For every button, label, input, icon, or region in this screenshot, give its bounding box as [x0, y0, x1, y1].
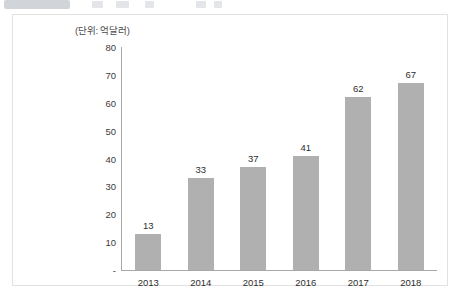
- bar-value-label: 33: [195, 164, 206, 175]
- y-axis-tick-50: 50: [83, 125, 123, 136]
- plot-area: -1020304050607080 133337416267 201320142…: [121, 47, 437, 271]
- header-ghost-item-1: [92, 1, 103, 8]
- y-axis-tick-30: 30: [83, 181, 123, 192]
- y-axis-tick-80: 80: [83, 42, 123, 53]
- bar-value-label: 62: [353, 83, 364, 94]
- header-ghost-item-4: [196, 1, 206, 8]
- bar-value-label: 41: [300, 142, 311, 153]
- bar-group[interactable]: 41: [280, 46, 333, 270]
- header-ghost-item-5: [214, 1, 222, 8]
- bar-value-label: 37: [248, 153, 259, 164]
- bar-value-label: 13: [143, 220, 154, 231]
- y-axis-tick-60: 60: [83, 97, 123, 108]
- bar-group[interactable]: 37: [227, 46, 280, 270]
- chart-panel: (단위: 억달러) -1020304050607080 133337416267…: [12, 14, 448, 286]
- x-axis-tick-2018: 2018: [385, 277, 438, 288]
- x-axis-tick-2015: 2015: [227, 277, 280, 288]
- header-badge: [4, 0, 70, 9]
- bars-layer: 133337416267: [122, 47, 437, 271]
- bar-rect[interactable]: [398, 83, 424, 270]
- y-axis-tick-70: 70: [83, 69, 123, 80]
- bar-rect[interactable]: [135, 234, 161, 270]
- bar-rect[interactable]: [188, 178, 214, 270]
- bar-group[interactable]: 67: [385, 46, 438, 270]
- header-ghost-item-2: [116, 1, 129, 8]
- y-axis-tick-20: 20: [83, 209, 123, 220]
- bar-rect[interactable]: [240, 167, 266, 270]
- bar-group[interactable]: 62: [332, 46, 385, 270]
- bar-value-label: 67: [405, 69, 416, 80]
- top-header-strip: [0, 0, 466, 12]
- y-axis-tick-0: -: [83, 265, 123, 276]
- bar-rect[interactable]: [345, 97, 371, 270]
- chart-unit-label: (단위: 억달러): [75, 23, 130, 37]
- header-ghost-item-3: [145, 1, 154, 8]
- x-axis-tick-2014: 2014: [175, 277, 228, 288]
- x-axis-tick-2016: 2016: [280, 277, 333, 288]
- x-axis-tick-2017: 2017: [332, 277, 385, 288]
- y-axis-tick-10: 10: [83, 237, 123, 248]
- x-axis-tick-2013: 2013: [122, 277, 175, 288]
- bar-group[interactable]: 33: [175, 46, 228, 270]
- bar-group[interactable]: 13: [122, 46, 175, 270]
- y-axis-tick-40: 40: [83, 153, 123, 164]
- bar-rect[interactable]: [293, 156, 319, 270]
